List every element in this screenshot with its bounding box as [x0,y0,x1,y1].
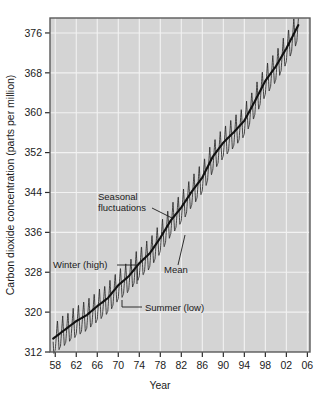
chart-svg: 376368360352344336328320312 586266707478… [0,0,320,395]
y-tick-label: 368 [24,67,42,79]
y-tick-label: 352 [24,146,42,158]
annotation-winter-label: Winter (high) [53,259,107,270]
x-tick-label: 94 [238,359,250,371]
annotation-mean-label: Mean [164,264,188,275]
x-tick-label: 66 [91,359,103,371]
x-tick-label: 70 [112,359,124,371]
annotation-seasonal-line1: Seasonal [98,191,138,202]
y-tick-label: 336 [24,226,42,238]
y-tick-label: 344 [24,186,42,198]
y-tick-label: 376 [24,27,42,39]
x-tick-label: 62 [70,359,82,371]
y-axis-title: Carbon dioxide concentration (parts per … [4,75,16,296]
annotation-summer-label: Summer (low) [145,302,204,313]
y-tick-label: 320 [24,306,42,318]
x-tick-label: 06 [302,359,314,371]
annotation-seasonal-line2: fluctuations [98,202,146,213]
x-tick-label: 98 [260,359,272,371]
y-tick-label: 312 [24,346,42,358]
x-axis-title: Year [149,379,171,391]
x-tick-label: 90 [217,359,229,371]
y-tick-label: 360 [24,106,42,118]
x-tick-label: 74 [133,359,145,371]
x-tick-label: 58 [49,359,61,371]
x-tick-label: 02 [281,359,293,371]
x-tick-label: 86 [196,359,208,371]
y-tick-label: 328 [24,266,42,278]
x-tick-label: 82 [175,359,187,371]
co2-concentration-chart: 376368360352344336328320312 586266707478… [0,0,320,395]
x-tick-label: 78 [154,359,166,371]
y-axis-tick-labels: 376368360352344336328320312 [24,27,42,358]
